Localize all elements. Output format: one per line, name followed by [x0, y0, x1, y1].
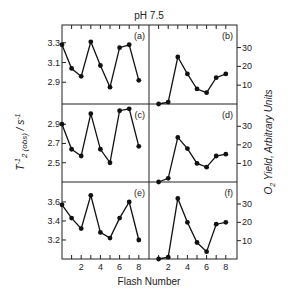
panel-label: (c)	[135, 110, 146, 120]
y-tick-label: 10	[242, 80, 252, 90]
data-point	[88, 39, 93, 44]
data-series	[60, 39, 229, 261]
data-point	[223, 72, 228, 77]
data-point	[204, 249, 209, 254]
panel-label: (e)	[134, 188, 145, 198]
y-tick-label: 3.4	[47, 216, 60, 226]
data-point	[60, 42, 65, 47]
data-point	[98, 147, 103, 152]
data-point	[195, 161, 200, 166]
figure: pH 7.5 2.93.13.31020302.52.72.91020303.2…	[0, 0, 288, 298]
data-point	[88, 193, 93, 198]
series-line-d	[159, 137, 226, 182]
data-point	[223, 220, 228, 225]
data-point	[175, 135, 180, 140]
axis-ticks: 2.93.13.31020302.52.72.91020303.23.43.62…	[47, 25, 252, 272]
data-point	[214, 154, 219, 159]
data-point	[214, 222, 219, 227]
data-point	[79, 226, 84, 231]
data-point	[223, 152, 228, 157]
svg-text:T-12 (obs) / s-1: T-12 (obs) / s-1	[14, 113, 29, 170]
x-tick-label: 2	[166, 262, 171, 272]
data-point	[156, 180, 161, 185]
y-tick-label: 2.9	[47, 77, 60, 87]
data-point	[117, 45, 122, 50]
y-tick-label: 3.3	[47, 38, 60, 48]
data-point	[79, 154, 84, 159]
data-point	[175, 196, 180, 201]
y-tick-label: 30	[242, 121, 252, 131]
data-point	[69, 147, 74, 152]
data-point	[156, 257, 161, 262]
data-point	[136, 144, 141, 149]
data-point	[136, 78, 141, 83]
y-tick-label: 30	[242, 199, 252, 209]
data-point	[69, 66, 74, 71]
data-point	[185, 220, 190, 225]
data-point	[185, 146, 190, 151]
y-tick-label: 3.6	[47, 197, 60, 207]
data-point	[175, 55, 180, 60]
data-point	[127, 42, 132, 47]
x-tick-label: 8	[223, 262, 228, 272]
y-tick-label: 3.1	[47, 58, 60, 68]
x-axis-label: Flash Number	[118, 276, 181, 287]
data-point	[204, 165, 209, 170]
data-point	[204, 90, 209, 95]
data-point	[60, 122, 65, 127]
y-axis-label-right: O2 Yield, Arbitrary Units	[263, 90, 276, 195]
x-tick-label: 8	[136, 262, 141, 272]
y-axis-label-left: T-12 (obs) / s-1	[14, 113, 29, 170]
data-point	[117, 108, 122, 113]
data-point	[117, 216, 122, 221]
data-point	[98, 230, 103, 235]
data-point	[60, 202, 65, 207]
data-point	[69, 216, 74, 221]
series-line-f	[159, 199, 226, 260]
y-tick-label: 3.2	[47, 235, 60, 245]
data-point	[156, 102, 161, 107]
chart-canvas: pH 7.5 2.93.13.31020302.52.72.91020303.2…	[0, 0, 288, 298]
data-point	[195, 240, 200, 245]
chart-title: pH 7.5	[134, 10, 164, 21]
data-point	[166, 255, 171, 260]
x-tick-label: 6	[117, 262, 122, 272]
series-line-c	[62, 109, 139, 163]
y-tick-label: 10	[242, 236, 252, 246]
data-point	[108, 85, 113, 90]
y-tick-label: 10	[242, 158, 252, 168]
panel-frames	[62, 25, 237, 259]
y-tick-label: 2.9	[47, 119, 60, 129]
data-point	[166, 100, 171, 105]
data-point	[195, 87, 200, 92]
data-point	[166, 176, 171, 181]
data-point	[88, 111, 93, 116]
data-point	[98, 63, 103, 68]
panel-label: (d)	[222, 110, 233, 120]
data-point	[185, 72, 190, 77]
panel-label: (a)	[134, 31, 145, 41]
data-point	[79, 74, 84, 79]
y-tick-label: 2.7	[47, 138, 60, 148]
x-tick-label: 4	[98, 262, 103, 272]
y-tick-label: 20	[242, 140, 252, 150]
data-point	[136, 238, 141, 243]
x-tick-label: 6	[204, 262, 209, 272]
data-point	[108, 236, 113, 241]
panel-label: (f)	[225, 188, 234, 198]
y-tick-label: 30	[242, 43, 252, 53]
x-tick-label: 2	[79, 262, 84, 272]
svg-text:O2 Yield, Arbitrary Units: O2 Yield, Arbitrary Units	[263, 90, 276, 195]
y-tick-label: 20	[242, 61, 252, 71]
panel-label: (b)	[222, 31, 233, 41]
data-point	[127, 200, 132, 205]
data-point	[127, 106, 132, 111]
y-tick-label: 2.5	[47, 158, 60, 168]
data-point	[108, 160, 113, 165]
data-point	[214, 75, 219, 80]
x-tick-label: 4	[185, 262, 190, 272]
y-tick-label: 20	[242, 217, 252, 227]
series-line-b	[159, 57, 226, 104]
